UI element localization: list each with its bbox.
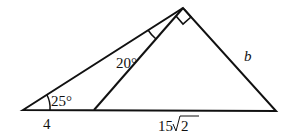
triangle-diagram: 25° 20° 4 b 15 2: [0, 0, 292, 140]
svg-text:2: 2: [181, 118, 189, 134]
angle-arc-20: [148, 30, 156, 39]
side-label-b: b: [244, 48, 252, 64]
svg-text:15: 15: [158, 118, 173, 134]
inner-cevian: [94, 8, 183, 110]
side-label-4: 4: [43, 116, 51, 132]
angle-label-20: 20°: [116, 55, 137, 71]
side-label-15-root-2: 15 2: [158, 116, 199, 134]
angle-arc-25: [47, 95, 50, 110]
angle-label-25: 25°: [51, 93, 72, 109]
